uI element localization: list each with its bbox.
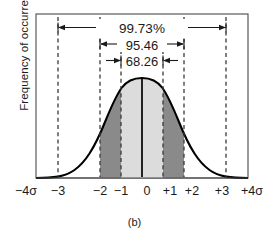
x-tick-minus2: −2 (93, 184, 107, 198)
annotation-99-73-label: 99.73% (119, 21, 165, 36)
distribution-chart: 99.73% 95.46 68.26 −4σ −3 (0, 0, 269, 239)
y-axis-label: Frequency of occurrence (18, 0, 30, 126)
normal-distribution-figure: Frequency of occurrence (0, 0, 269, 239)
x-tick-plus4: +4σ (241, 184, 263, 198)
annotation-68-26-label: 68.26 (126, 54, 159, 69)
x-axis-tick-labels: −4σ −3 −2 −1 0 +1 +2 +3 +4σ (15, 184, 263, 198)
x-tick-plus3: +3 (215, 184, 229, 198)
annotation-95-46-label: 95.46 (126, 38, 159, 53)
figure-caption: (b) (0, 216, 269, 228)
x-tick-minus3: −3 (51, 184, 65, 198)
x-tick-plus1: +1 (163, 184, 177, 198)
x-tick-zero: 0 (144, 184, 151, 198)
x-tick-minus1: −1 (114, 184, 128, 198)
x-tick-plus2: +2 (185, 184, 199, 198)
x-tick-minus4: −4σ (15, 184, 37, 198)
